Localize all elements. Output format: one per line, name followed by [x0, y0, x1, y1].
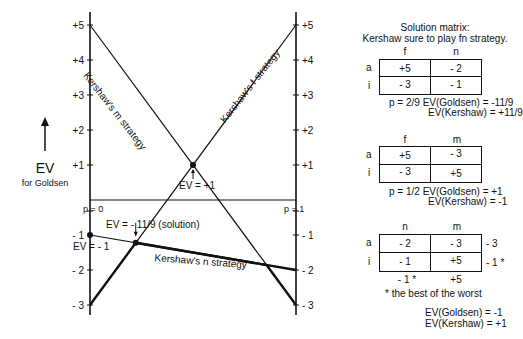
matrix3-table: - 2 - 3 - 1 +5	[379, 234, 482, 272]
matrix2-cell: - 3	[380, 163, 430, 180]
right-tick-label: +2	[302, 125, 314, 136]
matrix1-cell: - 1	[431, 76, 481, 93]
left-tick-label: - 2	[72, 265, 84, 276]
matrix1-note2: EV(Kershaw) = +11/9	[428, 107, 523, 118]
matrix1-row-a: a	[366, 62, 372, 73]
ev-axis-label: EV	[25, 160, 65, 176]
lower-envelope-right	[267, 265, 296, 305]
p1-label: p = 1	[284, 204, 304, 215]
matrix2-row-a: a	[366, 149, 372, 160]
matrix3-cell: +5	[431, 252, 481, 269]
ev-arrow-icon	[40, 117, 50, 151]
matrix1-title: Solution matrix:	[360, 22, 510, 33]
matrix2-cell: +5	[380, 147, 430, 164]
matrix3-cell: - 3	[431, 235, 481, 252]
right-tick-label: +1	[302, 160, 314, 171]
left-tick-label: +1	[73, 160, 85, 171]
right-tick-label: +3	[302, 90, 314, 101]
ev-plus1-annotation: EV = +1	[179, 180, 215, 191]
left-tick-label: +5	[73, 20, 85, 31]
matrix1-cell: +5	[380, 60, 430, 77]
matrix1-col-f: f	[395, 46, 415, 57]
ev-solution-annotation: EV = - 11/9 (solution)	[106, 219, 199, 230]
right-tick-label: - 1	[302, 230, 314, 241]
right-tick-label: - 2	[302, 265, 314, 276]
matrix2-cell: +5	[431, 165, 481, 182]
matrix1-row-i: i	[368, 80, 370, 91]
matrix3-row-a: a	[366, 237, 372, 248]
matrix3-cell: - 2	[380, 235, 430, 252]
left-tick-label: - 1	[72, 230, 84, 241]
ev-plus1-arrowhead-icon	[191, 169, 195, 173]
matrix3-col-max-m: +5	[444, 274, 468, 285]
left-tick-label: +4	[73, 55, 85, 66]
p0-label: p = 0	[83, 204, 103, 215]
right-tick-label: - 3	[302, 300, 314, 311]
ev-axis-sublabel: for Goldsen	[10, 178, 80, 189]
matrix3-col-max-n: - 1 *	[390, 274, 424, 285]
matrix2-table: +5 - 3 - 3 +5	[379, 146, 482, 183]
matrix3-note1: EV(Goldsen) = -1	[425, 307, 503, 318]
matrix3-footnote: * the best of the worst	[385, 288, 482, 299]
matrix2-col-f: f	[395, 134, 415, 145]
matrix3-cell: - 1	[380, 253, 430, 270]
matrix1-cell: - 3	[380, 76, 430, 93]
matrix3-col-n: n	[395, 221, 415, 232]
matrix3-row-min-a: - 3	[486, 238, 498, 249]
matrix1-table: +5 - 2 - 3 - 1	[379, 59, 482, 95]
matrix2-col-m: m	[447, 134, 467, 145]
matrix3-note2: EV(Kershaw) = +1	[425, 318, 507, 329]
matrix1-cell: - 2	[431, 60, 481, 77]
matrix2-note2: EV(Kershaw) = -1	[428, 196, 507, 207]
left-tick-label: - 3	[72, 300, 84, 311]
matrix3-row-i: i	[368, 256, 370, 267]
matrix1-col-n: n	[446, 46, 466, 57]
ev-plus1-point	[190, 162, 196, 168]
ev-minus1-point	[87, 232, 93, 238]
right-tick-label: +5	[302, 20, 314, 31]
solution-point	[133, 240, 139, 246]
left-tick-label: +3	[73, 90, 85, 101]
matrix2-row-i: i	[368, 167, 370, 178]
matrix2-cell: - 3	[431, 145, 481, 162]
matrix1-subtitle: Kershaw sure to play fn strategy.	[360, 33, 510, 44]
solution-arrowhead-icon	[134, 232, 138, 237]
ev-minus1-annotation: EV = - 1	[73, 241, 109, 252]
matrix3-row-min-i: - 1 *	[486, 257, 504, 268]
matrix3-col-m: m	[447, 221, 467, 232]
right-tick-label: +4	[302, 55, 314, 66]
left-tick-label: +2	[73, 125, 85, 136]
